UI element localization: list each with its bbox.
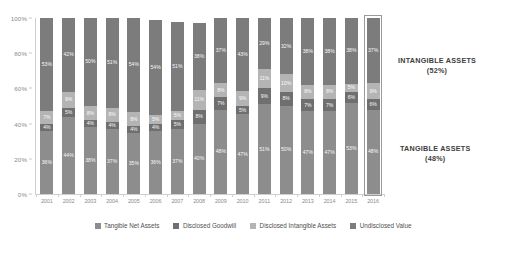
- bar-segment[interactable]: 8%: [214, 83, 227, 97]
- x-axis-tick-label: 2016: [362, 198, 384, 204]
- bar-column[interactable]: 40%8%11%38%: [193, 18, 206, 194]
- bar-segment[interactable]: 9%: [367, 83, 380, 99]
- bar-segment-label: 37%: [216, 48, 226, 53]
- bar-segment[interactable]: 5%: [236, 106, 249, 114]
- bar-segment[interactable]: 11%: [258, 69, 271, 88]
- y-axis-tick-label: 60%: [14, 85, 27, 92]
- bar-segment[interactable]: 8%: [280, 92, 293, 106]
- bar-segment-label: 40%: [194, 156, 204, 161]
- bar-column[interactable]: 47%7%8%38%: [301, 18, 314, 194]
- bar-segment[interactable]: 38%: [193, 23, 206, 90]
- bar-column[interactable]: 36%4%7%53%: [40, 18, 53, 194]
- bar-segment[interactable]: 47%: [301, 111, 314, 194]
- bar-column[interactable]: 48%7%8%37%: [214, 18, 227, 194]
- bar-segment[interactable]: 10%: [280, 74, 293, 92]
- bar-segment[interactable]: 9%: [62, 92, 75, 108]
- x-axis-tick-label: 2008: [188, 198, 210, 204]
- bar-segment[interactable]: 53%: [40, 18, 53, 111]
- bar-segment[interactable]: 7%: [214, 97, 227, 109]
- x-axis-tick-mark: [384, 194, 385, 197]
- bar-segment[interactable]: 51%: [258, 104, 271, 194]
- bar-segment[interactable]: 4%: [40, 124, 53, 131]
- x-axis-tick-mark: [297, 194, 298, 197]
- bar-segment[interactable]: 7%: [40, 111, 53, 123]
- bar-segment[interactable]: 4%: [106, 122, 119, 129]
- bar-segment[interactable]: 5%: [171, 111, 184, 120]
- bar-segment[interactable]: 8%: [127, 112, 140, 126]
- bar-segment[interactable]: 43%: [236, 18, 249, 91]
- bar-segment[interactable]: 36%: [40, 131, 53, 194]
- bar-segment[interactable]: 8%: [323, 85, 336, 99]
- bar-column[interactable]: 44%5%9%42%: [62, 18, 75, 194]
- bar-segment-label: 47%: [237, 152, 247, 157]
- bar-column[interactable]: 38%4%8%50%: [84, 18, 97, 194]
- bar-segment[interactable]: 11%: [193, 90, 206, 109]
- bar-segment[interactable]: 9%: [258, 88, 271, 104]
- bar-segment[interactable]: 48%: [214, 110, 227, 194]
- bar-segment[interactable]: 8%: [106, 108, 119, 122]
- legend-item[interactable]: Disclosed Goodwill: [173, 222, 236, 229]
- bar-segment[interactable]: 5%: [62, 108, 75, 117]
- bar-segment[interactable]: 53%: [345, 103, 358, 194]
- bar-segment[interactable]: 48%: [367, 110, 380, 194]
- bar-segment[interactable]: 5%: [149, 115, 162, 124]
- bar-segment[interactable]: 4%: [127, 126, 140, 133]
- bar-segment[interactable]: 38%: [84, 127, 97, 194]
- bar-segment[interactable]: 7%: [301, 99, 314, 111]
- bar-segment-label: 29%: [259, 41, 269, 46]
- bar-segment[interactable]: 44%: [62, 117, 75, 194]
- bar-segment[interactable]: 35%: [127, 133, 140, 194]
- bar-segment[interactable]: 8%: [84, 106, 97, 120]
- bar-segment-label: 8%: [108, 112, 115, 117]
- bar-segment[interactable]: 38%: [345, 18, 358, 84]
- bar-segment[interactable]: 5%: [171, 120, 184, 129]
- bar-segment[interactable]: 50%: [280, 106, 293, 194]
- bar-segment[interactable]: 37%: [106, 129, 119, 194]
- bar-segment-label: 8%: [195, 114, 202, 119]
- bar-segment[interactable]: 8%: [193, 110, 206, 124]
- legend-item[interactable]: Undisclosed Value: [350, 222, 411, 229]
- bar-segment[interactable]: 47%: [236, 114, 249, 194]
- bar-column[interactable]: 35%4%8%54%: [127, 18, 140, 194]
- bar-segment-label: 54%: [129, 62, 139, 67]
- bar-stack: 50%8%10%32%: [280, 18, 293, 194]
- bar-segment[interactable]: 51%: [171, 22, 184, 112]
- bar-column[interactable]: 53%6%5%38%: [345, 18, 358, 194]
- bar-segment[interactable]: 9%: [236, 91, 249, 106]
- bar-segment[interactable]: 29%: [258, 18, 271, 69]
- bar-segment[interactable]: 37%: [367, 18, 380, 83]
- legend-item[interactable]: Tangible Net Assets: [95, 222, 160, 229]
- bar-segment[interactable]: 54%: [127, 18, 140, 112]
- bar-segment-label: 36%: [150, 160, 160, 165]
- bar-segment[interactable]: 40%: [193, 124, 206, 194]
- bar-segment[interactable]: 4%: [84, 120, 97, 127]
- bar-segment[interactable]: 38%: [323, 18, 336, 85]
- bar-column[interactable]: 48%6%9%37%: [367, 18, 380, 194]
- bar-segment[interactable]: 6%: [367, 99, 380, 110]
- bar-segment[interactable]: 36%: [149, 131, 162, 194]
- bar-column[interactable]: 36%4%5%54%: [149, 18, 162, 194]
- bar-column[interactable]: 37%5%5%51%: [171, 18, 184, 194]
- bar-segment[interactable]: 51%: [106, 18, 119, 108]
- bar-segment[interactable]: 7%: [323, 99, 336, 111]
- bar-segment[interactable]: 42%: [62, 18, 75, 92]
- bar-column[interactable]: 47%7%8%38%: [323, 18, 336, 194]
- bar-segment[interactable]: 8%: [301, 85, 314, 99]
- bar-segment[interactable]: 38%: [301, 18, 314, 85]
- bar-segment[interactable]: 37%: [171, 129, 184, 194]
- bar-segment[interactable]: 50%: [84, 18, 97, 106]
- bar-segment[interactable]: 47%: [323, 111, 336, 194]
- bar-column[interactable]: 37%4%8%51%: [106, 18, 119, 194]
- bar-column[interactable]: 51%9%11%29%: [258, 18, 271, 194]
- bar-segment[interactable]: 5%: [345, 84, 358, 93]
- bar-column[interactable]: 47%5%9%43%: [236, 18, 249, 194]
- bar-segment[interactable]: 6%: [345, 92, 358, 102]
- bar-segment-label: 5%: [65, 110, 72, 115]
- bar-column[interactable]: 50%8%10%32%: [280, 18, 293, 194]
- bar-segment-label: 48%: [368, 149, 378, 154]
- legend-item[interactable]: Disclosed Intangible Assets: [250, 222, 336, 229]
- bar-segment[interactable]: 32%: [280, 18, 293, 74]
- bar-segment[interactable]: 4%: [149, 124, 162, 131]
- bar-segment[interactable]: 54%: [149, 20, 162, 115]
- bar-segment[interactable]: 37%: [214, 18, 227, 83]
